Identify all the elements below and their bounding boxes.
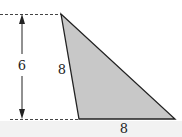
triangle-diagram: 6 8 8 <box>0 0 182 137</box>
left-side-label: 8 <box>58 62 66 77</box>
height-label: 6 <box>18 58 26 73</box>
base-label: 8 <box>120 121 128 136</box>
triangle <box>61 14 175 119</box>
